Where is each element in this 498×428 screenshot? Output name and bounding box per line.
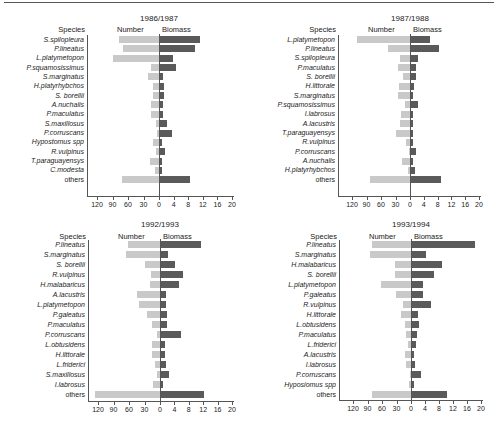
number-bar	[381, 281, 411, 288]
biomass-bar	[411, 120, 413, 127]
number-bar	[409, 148, 410, 155]
number-bar	[153, 92, 159, 99]
species-label: P.lineatus	[0, 45, 84, 53]
species-label: P.corruscans	[0, 331, 85, 339]
number-bar	[398, 64, 410, 71]
biomass-bar	[412, 261, 442, 268]
species-label: S.marginatus	[0, 251, 85, 259]
panel-title: 1986/1987	[99, 14, 219, 23]
species-label: R.vulpinus	[248, 138, 335, 146]
species-label: R.vulpinus	[0, 148, 84, 156]
x-axis-line	[87, 196, 234, 197]
number-bar	[147, 311, 160, 318]
species-label: H.littorale	[248, 82, 335, 90]
species-label: A.lacustris	[0, 291, 85, 299]
biomass-bar	[160, 64, 176, 71]
number-bar	[396, 130, 410, 137]
number-bar	[139, 301, 160, 308]
species-label: H.platyrhybchos	[248, 166, 335, 174]
number-bar	[157, 331, 160, 338]
x-tick	[367, 197, 368, 200]
x-tick	[189, 402, 190, 405]
x-tick	[396, 197, 397, 200]
x-tick-label: 20	[222, 406, 242, 413]
species-label: P.squamosissimus	[0, 64, 84, 72]
species-label: S.spilopleura	[0, 36, 84, 44]
biomass-legend-label: Biomass	[413, 25, 442, 34]
number-bar	[405, 351, 411, 358]
biomass-bar	[160, 120, 167, 127]
top-rule	[4, 2, 494, 3]
x-tick	[97, 197, 98, 200]
number-legend-label: Number	[368, 25, 395, 34]
x-tick	[145, 402, 146, 405]
species-label: S. borellii	[0, 261, 85, 269]
biomass-bar	[161, 241, 201, 248]
biomass-bar	[412, 291, 423, 298]
biomass-bar	[161, 301, 166, 308]
x-tick	[114, 402, 115, 405]
number-bar	[403, 73, 410, 80]
species-axis-label: Species	[43, 25, 85, 34]
species-label: S.maxillosus	[0, 371, 85, 379]
species-label: L.friderici	[0, 361, 85, 369]
number-bar	[157, 130, 159, 137]
species-label: T.paraguayensys	[0, 157, 84, 165]
number-bar	[395, 271, 411, 278]
number-legend-label: Number	[118, 232, 145, 241]
number-bar	[119, 36, 159, 43]
number-bar	[370, 251, 411, 258]
biomass-bar	[161, 371, 169, 378]
species-label: Hypostomus spp	[0, 138, 84, 146]
number-bar	[151, 101, 159, 108]
species-label: S. borellii	[249, 271, 336, 279]
biomass-bar	[160, 130, 172, 137]
x-tick	[188, 197, 189, 200]
species-label: A.lacustris	[248, 120, 335, 128]
species-label: H.littorale	[0, 351, 85, 359]
x-tick-label: 20	[471, 405, 491, 412]
x-tick	[439, 401, 440, 404]
number-bar	[151, 111, 159, 118]
biomass-bar	[412, 321, 419, 328]
species-label: I.labrosus	[248, 110, 335, 118]
number-bar	[150, 158, 159, 165]
x-tick	[174, 402, 175, 405]
number-bar	[156, 148, 159, 155]
species-label: others	[249, 391, 336, 399]
number-bar	[400, 55, 410, 62]
biomass-bar	[160, 167, 162, 174]
number-bar	[388, 45, 410, 52]
species-label: P.corruscans	[249, 371, 336, 379]
species-label: P.maculatus	[248, 64, 335, 72]
biomass-bar	[161, 341, 165, 348]
species-label: S. borellii	[248, 73, 335, 81]
number-bar	[157, 371, 160, 378]
number-bar	[145, 261, 161, 268]
number-bar	[396, 291, 411, 298]
biomass-bar	[160, 176, 190, 183]
biomass-bar	[412, 331, 417, 338]
species-label: S. borellii	[0, 92, 84, 100]
biomass-bar	[160, 101, 163, 108]
number-bar	[155, 167, 159, 174]
species-label: H.littorale	[249, 311, 336, 319]
number-bar	[410, 371, 411, 378]
number-bar	[156, 120, 159, 127]
x-tick	[465, 197, 466, 200]
biomass-bar	[412, 301, 431, 308]
number-bar	[150, 281, 160, 288]
biomass-bar	[160, 139, 162, 146]
biomass-bar	[160, 36, 200, 43]
number-bar	[152, 341, 160, 348]
biomass-bar	[411, 111, 413, 118]
species-label: Hyposiomus spp	[249, 381, 336, 389]
x-tick	[381, 197, 382, 200]
number-bar	[395, 261, 411, 268]
biomass-bar	[411, 92, 413, 99]
x-tick	[218, 402, 219, 405]
biomass-bar	[412, 361, 415, 368]
number-bar	[128, 241, 160, 248]
number-bar	[372, 241, 411, 248]
x-tick	[129, 402, 130, 405]
